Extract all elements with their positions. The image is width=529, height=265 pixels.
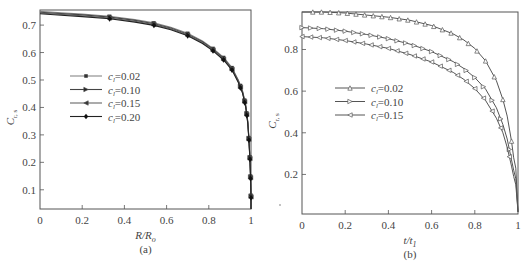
right-triangle-marker [317, 26, 321, 30]
y-axis-label: Cr, s [266, 113, 281, 129]
diamond-marker [84, 114, 88, 120]
left-triangle-marker [348, 113, 352, 117]
stray-dot [279, 204, 281, 206]
left-triangle-marker [386, 46, 390, 50]
right-triangle-marker [334, 28, 338, 32]
x-tick-label: 0.4 [382, 219, 396, 231]
y-tick-label: 0.8 [284, 43, 298, 55]
left-triangle-marker [360, 41, 364, 45]
left-triangle-marker [447, 68, 451, 72]
chart-panel-b: 00.20.40.60.810.20.40.60.8t/t1Cr, s(b)cl… [266, 10, 521, 261]
y-tick-label: 0.2 [284, 168, 298, 180]
up-triangle-marker [440, 28, 444, 32]
plot-frame [40, 10, 251, 209]
right-triangle-marker [499, 117, 503, 121]
right-triangle-marker [429, 49, 433, 53]
left-triangle-marker [326, 36, 330, 40]
plot-frame [302, 12, 518, 214]
legend-label: cl=0.15 [371, 109, 404, 123]
y-tick-label: 0.6 [284, 85, 298, 97]
series-line [302, 28, 518, 212]
right-triangle-marker [326, 27, 330, 31]
left-triangle-marker [499, 126, 503, 130]
left-triangle-marker [334, 37, 338, 41]
up-triangle-marker [509, 139, 513, 143]
y-tick-label: 0.6 [22, 47, 36, 59]
left-triangle-marker [308, 35, 312, 39]
left-triangle-marker [369, 43, 373, 47]
y-tick-label: 0.7 [22, 19, 36, 31]
up-triangle-marker [457, 35, 461, 39]
figure: 00.20.40.60.810.10.20.30.40.50.60.7R/RoC… [0, 0, 529, 265]
legend-label: cl=0.10 [371, 96, 404, 110]
x-tick-label: 0 [37, 214, 43, 226]
left-triangle-marker [84, 101, 88, 105]
y-tick-label: 0.5 [22, 74, 36, 86]
series-line [40, 14, 251, 209]
y-tick-label: 0.1 [22, 184, 36, 196]
left-triangle-marker [395, 49, 399, 53]
up-triangle-marker [492, 75, 496, 79]
right-triangle-marker [343, 29, 347, 33]
right-triangle-marker [412, 43, 416, 47]
x-axis-label: R/Ro [134, 229, 156, 244]
right-triangle-marker [386, 36, 390, 40]
x-tick-label: 1 [248, 214, 254, 226]
panel-caption: (a) [139, 243, 152, 256]
series-markers [300, 25, 512, 151]
y-tick-label: 0.3 [22, 129, 36, 141]
left-triangle-marker [403, 51, 407, 55]
legend-label: cl=0.20 [108, 111, 141, 125]
legend-label: cl=0.10 [108, 84, 141, 98]
right-triangle-marker [360, 32, 364, 36]
x-tick-label: 0 [299, 219, 305, 231]
legend-label: cl=0.02 [371, 82, 403, 96]
legend-label: cl=0.02 [108, 70, 140, 84]
x-tick-label: 0.2 [75, 214, 89, 226]
series-line [40, 13, 251, 209]
x-tick-label: 0.6 [160, 214, 174, 226]
legend-label: cl=0.15 [108, 97, 141, 111]
square-marker [84, 74, 88, 78]
left-triangle-marker [421, 57, 425, 61]
chart-panel-a: 00.20.40.60.810.10.20.30.40.50.60.7R/RoC… [4, 10, 254, 256]
left-triangle-marker [490, 109, 494, 113]
x-tick-label: 0.4 [118, 214, 132, 226]
y-tick-label: 0.2 [22, 156, 36, 168]
left-triangle-marker [343, 38, 347, 42]
x-tick-label: 0.2 [338, 219, 352, 231]
series-line [40, 11, 251, 209]
right-triangle-marker [84, 87, 88, 91]
legend: cl=0.02cl=0.10cl=0.15 [335, 82, 404, 123]
y-tick-label: 0.4 [22, 101, 36, 113]
panel-caption: (b) [404, 248, 417, 261]
right-triangle-marker [421, 46, 425, 50]
series-line [302, 12, 518, 212]
y-axis-label: Cr, s [4, 109, 19, 125]
x-tick-label: 1 [515, 219, 521, 231]
right-triangle-marker [352, 30, 356, 34]
x-tick-label: 0.8 [468, 219, 482, 231]
left-triangle-marker [352, 40, 356, 44]
left-triangle-marker [317, 35, 321, 39]
up-triangle-marker [501, 97, 505, 101]
right-triangle-marker [403, 41, 407, 45]
y-tick-label: 0.4 [284, 127, 298, 139]
left-triangle-marker [412, 54, 416, 58]
up-triangle-marker [449, 31, 453, 35]
right-triangle-marker [369, 33, 373, 37]
left-triangle-marker [429, 60, 433, 64]
series-line [40, 12, 251, 209]
up-triangle-marker [432, 24, 436, 28]
right-triangle-marker [308, 26, 312, 30]
right-triangle-marker [395, 39, 399, 43]
series-markers [300, 34, 512, 159]
x-tick-label: 0.8 [202, 214, 216, 226]
right-triangle-marker [438, 53, 442, 57]
x-tick-label: 0.6 [425, 219, 439, 231]
series-markers [311, 10, 514, 144]
right-triangle-marker [447, 57, 451, 61]
right-triangle-marker [348, 99, 352, 103]
legend: cl=0.02cl=0.10cl=0.15cl=0.20 [70, 70, 141, 125]
x-axis-label: t/t1 [403, 234, 416, 249]
